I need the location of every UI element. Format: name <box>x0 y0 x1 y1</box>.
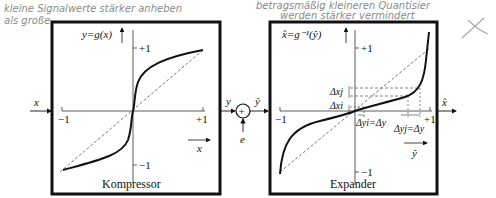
delta-xj-label: Δxj <box>329 86 343 97</box>
expander-tick-plus1-x: +1 <box>424 113 436 125</box>
output-xhat-label: x̂ <box>441 96 447 108</box>
expander-input-label: ŷ <box>254 95 260 107</box>
compressor-tick-minus1-y: −1 <box>139 159 151 171</box>
input-x-label: x <box>33 96 39 108</box>
handwritten-scribble-icon <box>462 18 488 38</box>
expander-block <box>270 22 437 194</box>
compressor-block <box>52 22 220 194</box>
expander-title: Expander <box>330 177 376 191</box>
expander-y-label: x̂=g⁻¹(ŷ) <box>281 28 322 41</box>
compressor-tick-plus1-x: +1 <box>196 113 208 125</box>
noise-e-label: e <box>240 133 245 145</box>
compressor-y-label: y=g(x) <box>81 28 112 41</box>
handwritten-note-right-2: werden stärker vermindert <box>280 10 416 21</box>
compressor-tick-plus1-y: +1 <box>139 42 151 54</box>
compressor-output-y-label: y <box>225 95 231 107</box>
compressor-x-label: x <box>196 142 202 154</box>
compander-diagram: kleine Signalwerte stärker anheben als g… <box>0 0 496 198</box>
delta-yj-label: Δyj=Δy <box>393 123 425 134</box>
delta-yi-label: Δyi=Δy <box>355 117 387 128</box>
expander-x-label: ŷ <box>411 147 417 159</box>
expander-tick-plus1-y: +1 <box>361 42 373 54</box>
expander-tick-minus1-x: −1 <box>275 113 287 125</box>
delta-xi-label: Δxi <box>329 100 343 111</box>
handwritten-note-left-2: als große <box>4 15 50 26</box>
compressor-tick-minus1-x: −1 <box>58 113 70 125</box>
handwritten-note-left: kleine Signalwerte stärker anheben <box>4 3 182 14</box>
compressor-title: Kompressor <box>102 177 161 191</box>
adder-plus-icon: + <box>239 105 245 117</box>
